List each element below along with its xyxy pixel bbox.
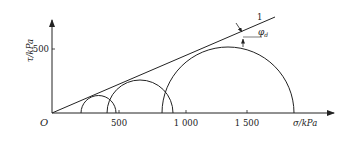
x-axis-label: σ/kPa (293, 118, 317, 128)
angle-arrow-top (236, 23, 242, 32)
x-tick-label-500: 500 (111, 118, 127, 128)
y-tick-label-500: 500 (33, 44, 49, 54)
x-tick-label-1500: 1 500 (235, 118, 259, 128)
envelope-line-label: 1 (257, 12, 262, 22)
y-axis-label: τ/kPa (25, 39, 35, 62)
friction-angle-label: φd (258, 27, 268, 38)
mohr-diagram: O 500 1 000 1 500 500 σ/kPa τ/kPa 1 φd (0, 0, 347, 143)
origin-label: O (40, 117, 48, 128)
x-tick-label-1000: 1 000 (174, 118, 198, 128)
